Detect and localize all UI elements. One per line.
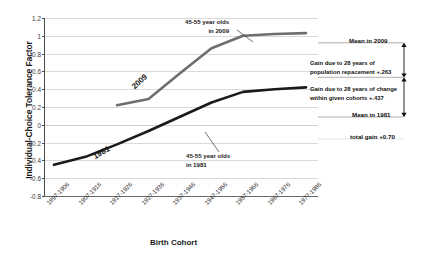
series-line-2009	[117, 33, 306, 105]
total-gain-label: total gain +0.70	[350, 133, 395, 140]
gain-population-annotation: Gain due to 28 years of population repac…	[310, 59, 391, 77]
arrowhead-up-cohorts	[401, 77, 406, 81]
leader-line-1981	[205, 132, 219, 152]
gain-cohorts-annotation: Gain due to 28 years of change within gi…	[310, 85, 397, 103]
arrowhead-up-population	[401, 43, 406, 47]
series-label-2009-line2: in 2009	[185, 27, 229, 36]
series-label-2009: 45-55 year olds in 2009	[185, 18, 229, 36]
series-label-1981-line2: in 1981	[186, 161, 230, 170]
gain-cohorts-line1: Gain due to 28 years of change	[310, 85, 397, 94]
series-label-2009-line1: 45-55 year olds	[185, 18, 229, 27]
series-layer	[54, 33, 306, 165]
arrowhead-down-cohorts	[401, 113, 406, 117]
series-label-1981: 45-55 year olds in 1981	[186, 152, 230, 170]
mean-1981-label: Mean in 1981	[352, 111, 391, 118]
gain-population-line2: population repacement +.263	[310, 68, 391, 77]
gain-population-line1: Gain due to 28 years of	[310, 59, 391, 68]
chart-canvas: Individual-Choice Tolerance Factor 1.210…	[0, 0, 438, 260]
mean-2009-label: Mean in 2009	[349, 37, 388, 44]
gain-cohorts-line2: within given cohorts +.437	[310, 94, 397, 103]
series-label-1981-line1: 45-55 year olds	[186, 152, 230, 161]
